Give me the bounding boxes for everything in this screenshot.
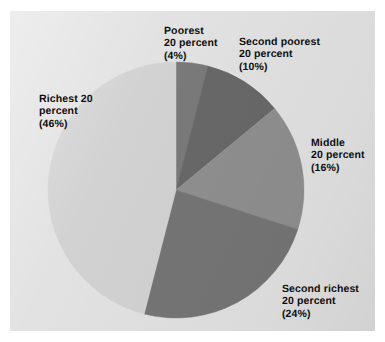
figure-root: Poorest 20 percent (4%) Second poorest 2… (0, 0, 385, 342)
pie-chart-panel: Poorest 20 percent (4%) Second poorest 2… (10, 11, 375, 331)
pie-label-second-poorest: Second poorest 20 percent (10%) (239, 36, 320, 73)
pie-label-second-richest: Second richest 20 percent (24%) (282, 283, 359, 320)
pie-label-poorest: Poorest 20 percent (4%) (164, 25, 218, 62)
pie-label-middle: Middle 20 percent (16%) (311, 137, 365, 174)
pie-label-richest: Richest 20 percent (46%) (39, 93, 93, 130)
